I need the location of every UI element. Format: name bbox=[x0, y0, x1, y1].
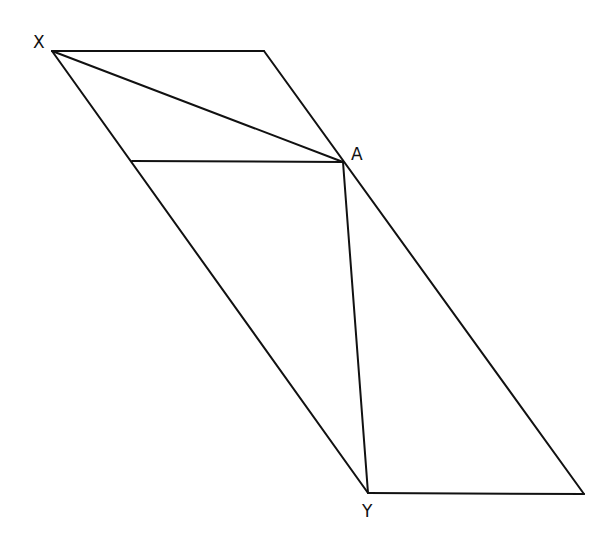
label-x: X bbox=[33, 32, 45, 52]
segment-ay bbox=[343, 162, 368, 493]
left-edge bbox=[52, 51, 368, 493]
geometry-diagram: X A Y bbox=[0, 0, 614, 543]
horizontal-segment bbox=[132, 161, 343, 162]
label-a: A bbox=[351, 144, 363, 164]
right-edge bbox=[264, 51, 584, 494]
segment-xa bbox=[52, 51, 343, 162]
label-y: Y bbox=[361, 501, 373, 521]
diagram-svg: X A Y bbox=[0, 0, 614, 543]
bottom-edge bbox=[368, 493, 584, 494]
